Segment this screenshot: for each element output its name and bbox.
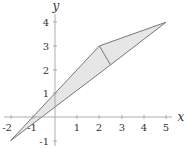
y-tick-label: -1 [39,136,49,147]
x-tick-label: -1 [27,122,37,133]
x-axis-label: x [178,110,185,124]
y-axis-label: y [52,0,60,13]
y-tick-label: 1 [43,88,49,99]
x-tick-label: -2 [2,122,12,133]
x-tick-label: 1 [74,122,80,133]
x-tick-label: 5 [163,122,169,133]
x-tick-label: 3 [119,122,125,133]
x-tick-label: 2 [96,122,102,133]
chart-canvas: -2 -1 1 2 3 4 5 4 3 2 1 -1 x y [0,0,189,148]
y-tick-label: 2 [43,65,49,76]
x-tick-label: 4 [141,122,147,133]
y-tick-label: 3 [43,41,49,52]
y-tick-label: 4 [43,17,49,28]
